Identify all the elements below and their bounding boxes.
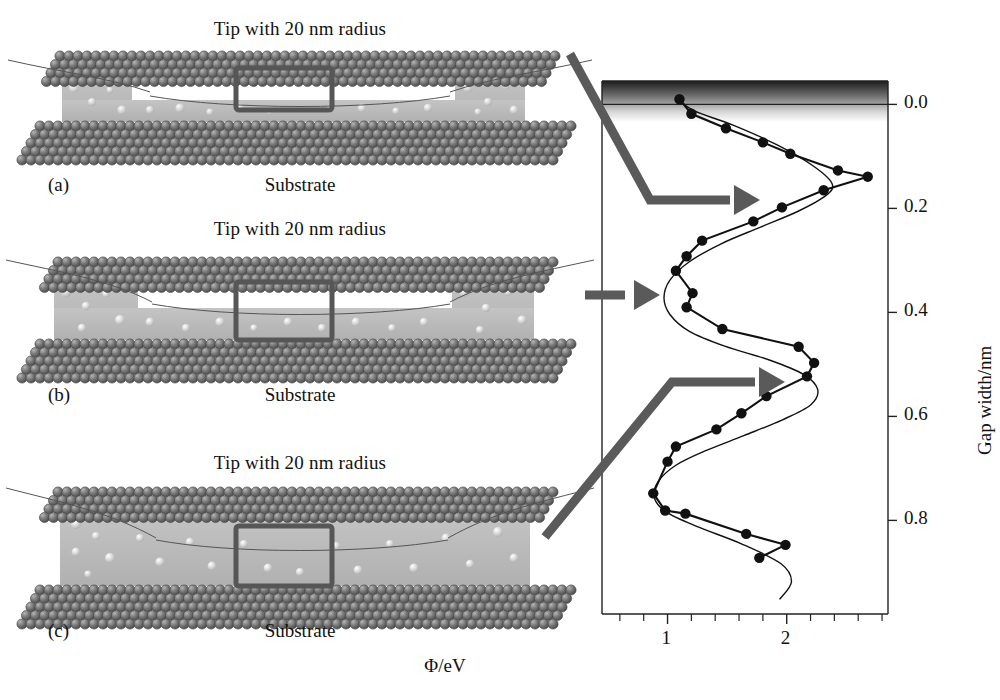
surface-gradient-band bbox=[602, 81, 888, 122]
data-point bbox=[736, 408, 746, 418]
data-point bbox=[711, 424, 721, 434]
data-point bbox=[758, 137, 768, 147]
film-layer-c bbox=[60, 512, 530, 586]
x-axis-label: Φ/eV bbox=[0, 655, 890, 677]
panel-a-title: Tip with 20 nm radius bbox=[0, 18, 600, 40]
data-point bbox=[777, 202, 787, 212]
panel-c-title: Tip with 20 nm radius bbox=[0, 452, 600, 474]
data-point bbox=[833, 165, 843, 175]
data-point bbox=[674, 94, 684, 104]
y-tick-0.8: 0.8 bbox=[904, 507, 928, 529]
x-tick-2: 2 bbox=[781, 627, 791, 649]
panel-a-letter: (a) bbox=[48, 174, 69, 196]
y-axis-label: Gap width/nm bbox=[974, 346, 996, 455]
data-point bbox=[818, 185, 828, 195]
arrow-from-panel-b-head bbox=[634, 280, 660, 310]
data-point bbox=[741, 529, 751, 539]
data-point bbox=[780, 540, 790, 550]
panel-b-title: Tip with 20 nm radius bbox=[0, 218, 600, 240]
panel-c-letter: (c) bbox=[48, 620, 69, 642]
y-tick-0.0: 0.0 bbox=[904, 91, 928, 113]
data-point bbox=[793, 342, 803, 352]
y-tick-0.6: 0.6 bbox=[904, 403, 928, 425]
panel-a-svg bbox=[0, 40, 600, 190]
data-point bbox=[785, 149, 795, 159]
data-point bbox=[863, 171, 873, 181]
panel-b-letter: (b) bbox=[48, 384, 70, 406]
panel-b-svg bbox=[0, 242, 600, 397]
panel-c-substrate-label: Substrate bbox=[0, 620, 600, 642]
y-tick-0.4: 0.4 bbox=[904, 299, 928, 321]
data-point bbox=[717, 324, 727, 334]
data-point bbox=[754, 553, 764, 563]
data-point bbox=[686, 109, 696, 119]
data-point bbox=[660, 505, 670, 515]
data-point bbox=[697, 235, 707, 245]
figure-root: Tip with 20 nm radius bbox=[0, 0, 1000, 700]
data-point bbox=[721, 123, 731, 133]
panel-a-substrate-label: Substrate bbox=[0, 174, 600, 196]
panel-b-schematic bbox=[0, 242, 600, 462]
data-point bbox=[809, 358, 819, 368]
data-point bbox=[671, 441, 681, 451]
data-point bbox=[648, 488, 658, 498]
data-point bbox=[748, 216, 758, 226]
data-points bbox=[648, 94, 873, 563]
arrow-from-panel-c-head bbox=[759, 367, 785, 397]
data-point bbox=[802, 371, 812, 381]
panel-b-substrate-label: Substrate bbox=[0, 384, 600, 406]
panel-a: Tip with 20 nm radius bbox=[0, 18, 600, 223]
data-point bbox=[662, 456, 672, 466]
plot-ticks bbox=[620, 104, 897, 624]
data-point bbox=[687, 288, 697, 298]
panel-c: Tip with 20 nm radius bbox=[0, 430, 600, 670]
data-point bbox=[680, 508, 690, 518]
fit-curve bbox=[654, 98, 833, 599]
panel-b: Tip with 20 nm radius bbox=[0, 218, 600, 433]
data-point bbox=[681, 251, 691, 261]
data-point bbox=[761, 391, 771, 401]
data-point bbox=[671, 266, 681, 276]
plot-frame bbox=[602, 81, 888, 614]
x-tick-1: 1 bbox=[662, 627, 672, 649]
y-tick-0.2: 0.2 bbox=[904, 195, 928, 217]
arrow-from-panel-a-head bbox=[734, 185, 760, 215]
data-polyline bbox=[653, 99, 868, 558]
data-point bbox=[681, 302, 691, 312]
